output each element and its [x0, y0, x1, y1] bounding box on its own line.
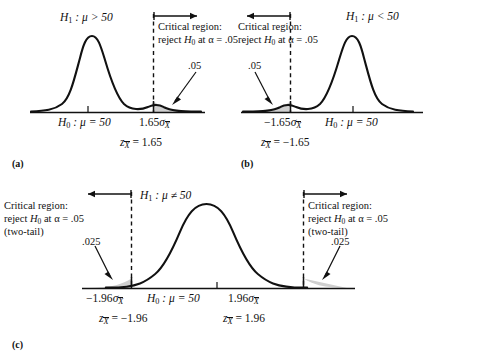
- panel-c-right-tail-pointer-shaft: [325, 246, 340, 276]
- panel-a-tail-pointer-shaft: [175, 72, 196, 101]
- panel-a-letter: (a): [12, 158, 24, 170]
- panel-c-right-direction-arrow-head: [340, 191, 347, 197]
- panel-c-alt-hypothesis: H1 : μ ≠ 50: [140, 189, 191, 204]
- panel-c-left-critical-region-line3: (two-tail): [4, 226, 84, 239]
- panel-a-null-hypothesis: H0 : μ = 50: [58, 116, 111, 131]
- panel-b-critical-region-text: Critical region: reject H0 at α = .05: [238, 21, 318, 47]
- panel-c-right-critical-region-line1: Critical region:: [308, 200, 388, 213]
- panel-b-tail-pointer-head: [265, 97, 274, 106]
- panel-c-right-critical-region-text: Critical region: reject H0 at α = .05 (t…: [308, 200, 388, 238]
- panel-a-z-label: zX = 1.65: [120, 136, 162, 151]
- panel-c: H1 : μ ≠ 50 Critical region: reject H0 a…: [0, 180, 483, 358]
- panel-a-critical-region-text: Critical region: reject H0 at α = .05: [158, 21, 238, 47]
- panel-c-left-direction-arrow-head: [88, 191, 95, 197]
- panel-a-direction-arrow-head: [190, 13, 197, 19]
- panel-c-left-critical-region-line2: reject H0 at α = .05: [4, 213, 84, 226]
- panel-c-left-critical-region-line1: Critical region:: [4, 200, 84, 213]
- panel-c-left-tail-pointer-head: [105, 272, 114, 281]
- panel-c-left-tail-area-label: .025: [82, 236, 100, 248]
- panel-b-critical-value-label: −1.65σX: [264, 116, 301, 131]
- panel-b-critical-region-line2: reject H0 at α = .05: [238, 34, 318, 47]
- panel-a-alt-hypothesis: H1 : μ > 50: [60, 11, 113, 26]
- panel-c-left-z-label: zX = −1.96: [99, 312, 147, 327]
- panel-a-critical-region-line2: reject H0 at α = .05: [158, 34, 238, 47]
- panel-a-critical-value-label: 1.65σX: [139, 116, 170, 131]
- panel-b-critical-region-line1: Critical region:: [238, 21, 318, 34]
- panel-c-left-critical-value-label: −1.96σX: [86, 292, 123, 307]
- panel-c-right-critical-region-line2: reject H0 at α = .05: [308, 213, 388, 226]
- panel-b: H1 : μ < 50 Critical region: reject H0 a…: [233, 0, 483, 180]
- panel-c-right-tail-shading: [304, 279, 348, 288]
- panel-b-direction-arrow-head: [247, 13, 254, 19]
- panel-c-normal-curve: [106, 204, 307, 288]
- panel-c-right-tail-pointer-head: [322, 272, 331, 281]
- panel-c-left-critical-region-text: Critical region: reject H0 at α = .05 (t…: [4, 200, 84, 238]
- panel-a-tail-area-label: .05: [188, 60, 201, 72]
- panel-b-letter: (b): [241, 158, 253, 170]
- panel-b-null-hypothesis: H0 : μ = 50: [325, 116, 378, 131]
- panel-b-tail-area-label: .05: [248, 60, 261, 72]
- panel-c-letter: (c): [12, 339, 23, 351]
- panel-c-right-tail-area-label: .025: [331, 236, 349, 248]
- panel-c-left-tail-pointer-shaft: [95, 246, 110, 276]
- panel-a-critical-region-line1: Critical region:: [158, 21, 238, 34]
- panel-b-tail-pointer-shaft: [255, 72, 270, 101]
- panel-c-null-hypothesis: H0 : μ = 50: [147, 292, 200, 307]
- panel-a-tail-pointer-head: [172, 97, 181, 106]
- panel-c-right-z-label: zX = 1.96: [223, 312, 265, 327]
- panel-b-z-label: zX = −1.65: [261, 136, 309, 151]
- panel-a: H1 : μ > 50 Critical region: reject H0 a…: [0, 0, 250, 180]
- panel-c-right-critical-value-label: 1.96σX: [228, 292, 259, 307]
- panel-b-alt-hypothesis: H1 : μ < 50: [346, 10, 399, 25]
